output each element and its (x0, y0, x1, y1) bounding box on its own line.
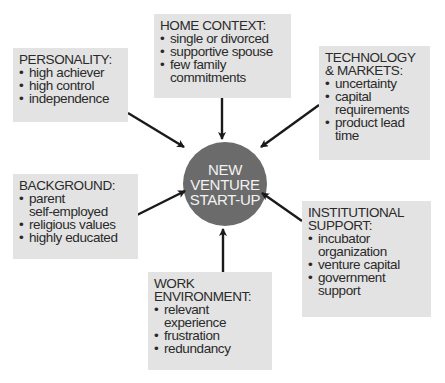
factor-title: WORK ENVIRONMENT: (154, 277, 266, 303)
factor-list: incubator organization venture capital g… (308, 232, 425, 297)
factor-list: high achiever high control independence (19, 66, 122, 105)
factor-item: independence (19, 92, 122, 105)
factor-list: relevant experience frustration redundan… (154, 303, 266, 355)
factor-list: uncertainty capital requirements product… (325, 77, 424, 142)
factor-item: redundancy (154, 342, 266, 355)
factor-work-environment: WORK ENVIRONMENT: relevant experience fr… (148, 272, 272, 370)
hub-label: NEW VENTURE START-UP (183, 162, 267, 207)
arrow-technology-markets (261, 105, 319, 147)
arrow-background (137, 191, 185, 215)
factor-item: highly educated (19, 231, 132, 244)
factor-item: government support (308, 271, 425, 297)
factor-title: INSTITUTIONAL SUPPORT: (308, 206, 425, 232)
factor-item: product lead time (325, 116, 424, 142)
factor-title: TECHNOLOGY & MARKETS: (325, 51, 424, 77)
factor-background: BACKGROUND: parent self-employed religio… (13, 174, 138, 259)
factor-institutional-support: INSTITUTIONAL SUPPORT: incubator organiz… (302, 201, 431, 317)
factor-home-context: HOME CONTEXT: single or divorced support… (154, 14, 291, 98)
factor-list: parent self-employed religious values hi… (19, 192, 132, 244)
factor-list: single or divorced supportive spouse few… (160, 32, 285, 84)
factor-item: relevant experience (154, 303, 266, 329)
factor-item: incubator organization (308, 232, 425, 258)
factor-technology-markets: TECHNOLOGY & MARKETS: uncertainty capita… (319, 46, 430, 160)
arrow-personality (128, 113, 184, 147)
factor-personality: PERSONALITY: high achiever high control … (13, 48, 128, 122)
factor-item: capital requirements (325, 90, 424, 116)
arrow-institutional-support (262, 193, 302, 221)
factor-item: few family commitments (160, 58, 285, 84)
factor-item: parent self-employed (19, 192, 132, 218)
